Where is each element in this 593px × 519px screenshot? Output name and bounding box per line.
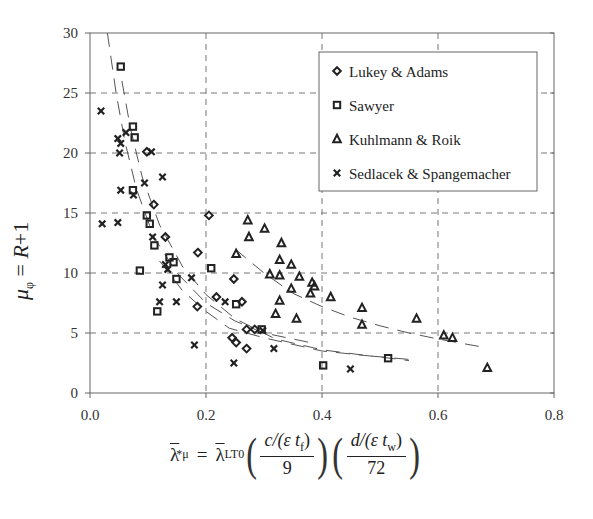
data-point-diamond <box>243 326 251 334</box>
y-tick-label: 15 <box>63 205 78 221</box>
y-tick-label: 20 <box>63 145 78 161</box>
legend-item-label: Sedlacek & Spangemacher <box>349 166 511 182</box>
x-label-mu-sub: μ <box>182 447 188 462</box>
data-point-triangle <box>245 233 253 240</box>
data-point-square <box>131 134 137 140</box>
data-point-x <box>231 360 237 366</box>
x-label-rparen-1: ) <box>317 432 328 478</box>
data-point-square <box>118 63 124 69</box>
x-tick-label: 0.8 <box>545 407 564 423</box>
frac2-num-sub: w <box>387 440 396 454</box>
legend: Lukey & AdamsSawyerKuhlmann & RoikSedlac… <box>319 52 537 191</box>
data-point-triangle <box>484 364 492 371</box>
x-label-fraction-1: c/(ε tf) 9 <box>260 430 314 479</box>
data-point-triangle <box>296 272 304 279</box>
data-point-diamond <box>194 303 202 311</box>
data-point-triangle <box>327 293 335 300</box>
x-axis-label: λ*μ = λLT0 ( c/(ε tf) 9 ) ( d/(ε tw) 72 … <box>170 430 422 479</box>
data-point-triangle <box>293 314 301 321</box>
data-point-x <box>191 342 197 348</box>
legend-item-label: Lukey & Adams <box>349 64 448 80</box>
data-point-triangle <box>261 224 269 231</box>
y-tick-label: 25 <box>63 85 78 101</box>
y-label-eq: = <box>8 259 33 282</box>
data-point-x <box>271 345 277 351</box>
x-label-lt0-sub: LT0 <box>225 447 245 462</box>
data-point-x <box>141 180 147 186</box>
data-point-triangle <box>272 310 280 317</box>
data-point-x <box>156 299 162 305</box>
data-point-triangle <box>276 296 284 303</box>
data-point-square <box>144 212 150 218</box>
data-point-square <box>233 301 239 307</box>
data-point-square <box>170 259 176 265</box>
x-label-lparen-1: ( <box>246 432 257 478</box>
data-point-triangle <box>276 271 284 278</box>
x-tick-label: 0.6 <box>429 407 448 423</box>
data-point-square <box>147 221 153 227</box>
y-tick-label: 5 <box>71 325 79 341</box>
data-point-triangle <box>266 270 274 277</box>
y-axis-label: μφ = R+1 <box>8 222 37 300</box>
data-point-x <box>159 282 165 288</box>
x-tick-label: 0.2 <box>197 407 216 423</box>
frac2-num: d/(ε t <box>351 430 388 450</box>
x-label-equals: = <box>197 444 208 466</box>
data-point-x <box>115 219 121 225</box>
data-point-diamond <box>230 275 238 283</box>
x-label-lambda-lt0: λ <box>215 444 224 466</box>
data-point-diamond <box>243 345 251 353</box>
y-label-sub: φ <box>22 282 36 289</box>
x-tick-label: 0.0 <box>81 407 100 423</box>
y-label-tail: +1 <box>8 222 33 245</box>
data-point-x <box>159 174 165 180</box>
data-point-x <box>188 275 194 281</box>
data-point-square <box>208 265 214 271</box>
legend-item-label: Kuhlmann & Roik <box>349 132 461 148</box>
data-point-triangle <box>278 239 286 246</box>
data-point-x <box>99 221 105 227</box>
data-point-x <box>98 108 104 114</box>
data-point-x <box>347 366 353 372</box>
frac1-num: c/(ε t <box>264 430 300 450</box>
data-point-square <box>320 362 326 368</box>
data-point-x <box>173 299 179 305</box>
data-point-diamond <box>213 293 221 301</box>
data-point-triangle <box>287 260 295 267</box>
data-point-square <box>137 267 143 273</box>
x-label-fraction-2: d/(ε tw) 72 <box>347 430 406 479</box>
y-tick-label: 0 <box>71 385 79 401</box>
x-label-lparen-2: ( <box>333 432 344 478</box>
data-point-x <box>222 299 228 305</box>
data-point-square <box>154 308 160 314</box>
data-point-triangle <box>440 331 448 338</box>
frac1-den: 9 <box>283 457 292 479</box>
data-point-triangle <box>276 256 284 263</box>
data-point-x <box>118 187 124 193</box>
legend-item-label: Sawyer <box>349 98 394 114</box>
y-label-R: R <box>8 245 33 258</box>
frac2-num-close: ) <box>396 430 402 450</box>
y-tick-label: 30 <box>63 25 78 41</box>
data-point-square <box>130 123 136 129</box>
data-point-triangle <box>413 314 421 321</box>
data-point-triangle <box>449 334 457 341</box>
y-tick-label: 10 <box>63 265 78 281</box>
x-label-rparen-2: ) <box>409 432 420 478</box>
x-tick-label: 0.4 <box>313 407 332 423</box>
y-label-mu: μ <box>8 289 33 300</box>
data-point-triangle <box>244 216 252 223</box>
data-point-square <box>151 242 157 248</box>
frac1-num-close: ) <box>304 430 310 450</box>
data-point-triangle <box>287 284 295 291</box>
frac2-den: 72 <box>367 457 385 479</box>
data-point-diamond <box>194 249 202 257</box>
data-point-triangle <box>358 304 366 311</box>
data-point-square <box>173 276 179 282</box>
data-point-triangle <box>232 250 240 257</box>
